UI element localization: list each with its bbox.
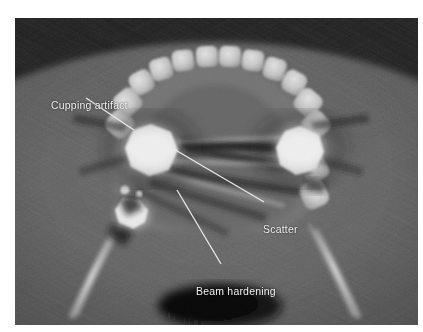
annotation-label-scatter: Scatter xyxy=(263,224,298,235)
ct-scan-canvas xyxy=(15,18,418,325)
annotation-label-beam-hardening: Beam hardening xyxy=(196,286,276,297)
ct-image: Cupping artifact Scatter Beam hardening xyxy=(15,18,418,325)
figure-root: Cupping artifact Scatter Beam hardening xyxy=(0,0,423,332)
annotation-label-cupping-artifact: Cupping artifact xyxy=(51,100,128,111)
final-grain-overlay xyxy=(15,18,418,325)
